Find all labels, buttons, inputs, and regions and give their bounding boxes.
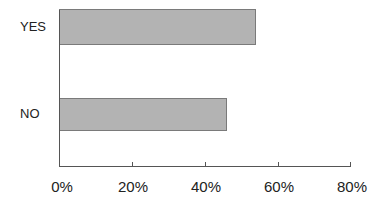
x-tick-60 — [278, 162, 279, 167]
x-tick-label-60: 60% — [264, 178, 294, 195]
x-tick-label-80: 80% — [337, 178, 367, 195]
bar-yes — [59, 9, 256, 45]
x-tick-40 — [205, 162, 206, 167]
category-label-yes: YES — [20, 19, 46, 34]
bar-no — [59, 98, 227, 131]
x-tick-label-40: 40% — [191, 178, 221, 195]
category-label-no: NO — [20, 106, 40, 121]
x-tick-0 — [59, 162, 60, 167]
x-tick-label-0: 0% — [51, 178, 73, 195]
bar-chart: YES NO 0% 20% 40% 60% 80% — [0, 0, 381, 207]
x-tick-80 — [350, 162, 351, 167]
x-tick-label-20: 20% — [118, 178, 148, 195]
y-axis-line — [59, 10, 60, 167]
x-tick-20 — [132, 162, 133, 167]
